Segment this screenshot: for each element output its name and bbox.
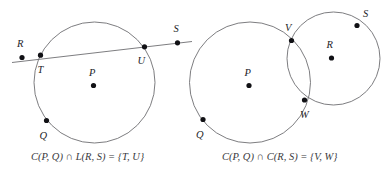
point-P-label: P (88, 67, 96, 78)
point-P-label-right: P (244, 67, 252, 78)
point-W-label: W (300, 109, 310, 120)
point-R-label-right: R (326, 39, 334, 50)
point-Q-dot-right (200, 117, 205, 122)
point-U-label: U (138, 55, 147, 66)
point-R-dot-right (329, 55, 334, 60)
circle-P-Q-left (34, 22, 155, 143)
point-R-dot (19, 55, 24, 60)
point-S-dot (175, 40, 180, 45)
right-panel-caption: C(P, Q) ∩ C(R, S) = {V, W} (222, 151, 338, 163)
line-R-S (12, 42, 192, 63)
point-Q-label-right: Q (196, 129, 204, 140)
figure-root: R T U S P Q C(P, Q) ∩ L(R, S) = {T, U} V… (0, 0, 388, 176)
point-P-dot (91, 83, 96, 88)
point-Q-label: Q (40, 130, 48, 141)
point-T-label: T (38, 64, 45, 75)
point-V-dot (289, 38, 294, 43)
left-panel-caption: C(P, Q) ∩ L(R, S) = {T, U} (31, 151, 145, 163)
point-P-dot-right (246, 83, 251, 88)
point-U-dot (142, 44, 147, 49)
point-W-dot (302, 97, 307, 102)
point-S-label-right: S (363, 8, 369, 19)
point-R-label: R (16, 38, 24, 49)
point-S-dot-right (354, 23, 359, 28)
right-panel: V W S R P Q C(P, Q) ∩ C(R, S) = {V, W} (190, 8, 381, 164)
point-S-label: S (174, 23, 180, 34)
geometry-diagram: R T U S P Q C(P, Q) ∩ L(R, S) = {T, U} V… (0, 0, 388, 176)
left-panel: R T U S P Q C(P, Q) ∩ L(R, S) = {T, U} (12, 22, 192, 163)
point-Q-dot (44, 118, 49, 123)
point-T-dot (38, 53, 43, 58)
point-V-label: V (285, 22, 293, 33)
